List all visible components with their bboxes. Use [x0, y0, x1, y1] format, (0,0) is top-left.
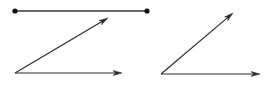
- right-figure: [161, 13, 260, 77]
- top-line-segment-start-endpoint-dot: [12, 8, 17, 13]
- left-figure: [12, 8, 149, 75]
- geometry-figure-svg: [0, 0, 266, 85]
- right-angle-upper-ray-line: [161, 17, 229, 74]
- top-line-segment-end-endpoint-dot: [144, 8, 149, 13]
- figure-group: [12, 8, 260, 76]
- left-angle-upper-ray-arrowhead-icon: [99, 18, 108, 25]
- figure-canvas: [0, 0, 266, 85]
- left-angle-upper-ray-line: [15, 21, 103, 73]
